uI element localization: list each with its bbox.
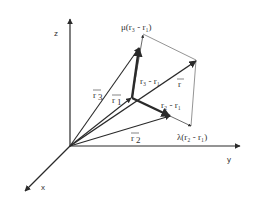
svg-text:r: r	[178, 79, 181, 89]
x-axis	[25, 146, 70, 191]
label-r3-minus-r1: r₃ - r₁	[140, 76, 160, 86]
label-r2: r 2	[131, 133, 141, 145]
z-axis-label: z	[54, 29, 58, 38]
label-r: r	[177, 79, 184, 89]
svg-text:r: r	[93, 90, 96, 100]
svg-text:2: 2	[136, 135, 141, 145]
svg-text:1: 1	[117, 97, 122, 107]
svg-text:r: r	[112, 95, 115, 105]
r-to-lambda-edge	[191, 60, 196, 126]
y-axis-label: y	[227, 155, 231, 164]
label-r3: r 3	[93, 90, 103, 102]
x-axis-label: x	[41, 183, 45, 192]
plane-vector-diagram: z y x r 3 r 1 r 2 r r₃ - r₁ r₂ - r₁ μ(r₃…	[0, 0, 256, 199]
mu-to-r-edge	[143, 34, 196, 60]
r3-vector	[70, 48, 139, 146]
label-lambda-term: λ(r₂ - r₁)	[177, 132, 207, 142]
r1-vector	[70, 98, 131, 146]
label-mu-term: μ(r₃ - r₁)	[121, 22, 152, 32]
label-r2-minus-r1: r₂ - r₁	[161, 100, 181, 110]
label-r1: r 1	[112, 95, 122, 107]
r2-vector	[70, 116, 170, 146]
svg-text:r: r	[131, 133, 134, 143]
svg-text:3: 3	[98, 92, 103, 102]
